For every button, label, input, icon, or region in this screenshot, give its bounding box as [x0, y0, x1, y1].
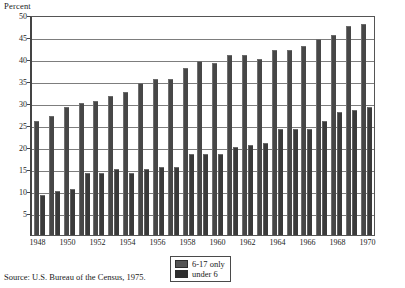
- y-axis-tick-label: 50: [5, 12, 27, 21]
- bar-group: [138, 17, 149, 235]
- x-axis-tick-label: 1968: [330, 238, 346, 247]
- source-note: Source: U.S. Bureau of the Census, 1975.: [4, 272, 146, 282]
- bar-under-6: [307, 129, 312, 235]
- bar-under-6: [233, 147, 238, 235]
- bar-6-17-only: [49, 116, 54, 235]
- x-axis-tick-label: 1966: [300, 238, 316, 247]
- bar-under-6: [129, 173, 134, 235]
- bar-under-6: [248, 145, 253, 235]
- bar-under-6: [174, 167, 179, 235]
- bar-group: [301, 17, 312, 235]
- legend-swatch-icon-under-6: [175, 270, 188, 278]
- y-axis-tick-label: 40: [5, 56, 27, 65]
- x-axis-tick-label: 1958: [180, 238, 196, 247]
- bar-group: [212, 17, 223, 235]
- bar-6-17-only: [153, 79, 158, 235]
- bar-under-6: [263, 143, 268, 235]
- bar-group: [153, 17, 164, 235]
- bar-6-17-only: [316, 39, 321, 235]
- y-axis-tick-label: 5: [5, 210, 27, 219]
- bar-group: [108, 17, 119, 235]
- bar-under-6: [70, 189, 75, 235]
- bar-group: [331, 17, 342, 235]
- bar-under-6: [352, 110, 357, 235]
- bar-under-6: [322, 121, 327, 235]
- bar-group: [272, 17, 283, 235]
- bar-6-17-only: [361, 24, 366, 235]
- bar-group: [197, 17, 208, 235]
- x-axis-tick-label: 1964: [270, 238, 286, 247]
- bar-under-6: [218, 154, 223, 235]
- x-axis-tick-label: 1956: [150, 238, 166, 247]
- x-axis-tick-label: 1950: [60, 238, 76, 247]
- bar-group: [79, 17, 90, 235]
- bar-group: [346, 17, 357, 235]
- legend-label-6-17-only: 6-17 only: [192, 259, 225, 269]
- bar-6-17-only: [93, 101, 98, 235]
- bar-under-6: [40, 195, 45, 235]
- bar-6-17-only: [287, 50, 292, 235]
- bar-group: [183, 17, 194, 235]
- bar-group: [316, 17, 327, 235]
- bar-6-17-only: [272, 50, 277, 235]
- legend-swatch-icon-6-17-only: [175, 260, 188, 268]
- bar-group: [93, 17, 104, 235]
- bar-group: [227, 17, 238, 235]
- bar-under-6: [85, 173, 90, 235]
- y-axis-tick-label: 15: [5, 166, 27, 175]
- bar-groups: [32, 17, 374, 235]
- x-axis-tick-label: 1960: [210, 238, 226, 247]
- bar-6-17-only: [79, 103, 84, 235]
- y-axis-tick-label: 25: [5, 122, 27, 131]
- bar-group: [361, 17, 372, 235]
- y-axis-tick-label: 20: [5, 144, 27, 153]
- bar-under-6: [203, 154, 208, 235]
- bar-under-6: [189, 154, 194, 235]
- bar-group: [123, 17, 134, 235]
- bar-6-17-only: [197, 61, 202, 235]
- x-axis-tick-label: 1948: [30, 238, 46, 247]
- bar-under-6: [293, 129, 298, 235]
- bar-under-6: [99, 173, 104, 235]
- bar-under-6: [278, 129, 283, 235]
- bar-group: [64, 17, 75, 235]
- bar-under-6: [337, 112, 342, 235]
- x-axis-tick-label: 1970: [360, 238, 376, 247]
- bar-6-17-only: [168, 79, 173, 235]
- chart-figure: Percent 5045403530252015105 194819501952…: [0, 0, 405, 288]
- bar-6-17-only: [331, 35, 336, 235]
- bar-6-17-only: [123, 92, 128, 235]
- x-axis-tick-label: 1954: [120, 238, 136, 247]
- bar-6-17-only: [183, 68, 188, 235]
- y-axis-title: Percent: [4, 1, 31, 11]
- bar-under-6: [144, 169, 149, 235]
- bar-group: [242, 17, 253, 235]
- legend-item-under-6: under 6: [175, 269, 225, 279]
- legend-label-under-6: under 6: [192, 269, 218, 279]
- chart-legend: 6-17 only under 6: [170, 256, 231, 282]
- bar-6-17-only: [301, 46, 306, 235]
- y-axis-tick-label: 45: [5, 34, 27, 43]
- bar-group: [287, 17, 298, 235]
- bar-group: [49, 17, 60, 235]
- bar-group: [168, 17, 179, 235]
- bar-group: [34, 17, 45, 235]
- bar-under-6: [159, 167, 164, 235]
- bar-under-6: [114, 169, 119, 235]
- bar-6-17-only: [108, 96, 113, 235]
- bar-6-17-only: [64, 107, 69, 235]
- bar-6-17-only: [212, 63, 217, 235]
- bar-6-17-only: [346, 26, 351, 235]
- bar-6-17-only: [257, 59, 262, 235]
- bar-6-17-only: [34, 121, 39, 235]
- y-axis-tick-label: 10: [5, 188, 27, 197]
- y-axis-tick-label: 30: [5, 100, 27, 109]
- x-axis-tick-label: 1952: [90, 238, 106, 247]
- bar-6-17-only: [227, 55, 232, 235]
- y-axis-tick-label: 35: [5, 78, 27, 87]
- x-axis-tick-labels: 1948195019521954195619581960196219641966…: [30, 238, 375, 250]
- bar-group: [257, 17, 268, 235]
- bar-under-6: [55, 191, 60, 235]
- bar-6-17-only: [138, 83, 143, 235]
- x-axis-tick-label: 1962: [240, 238, 256, 247]
